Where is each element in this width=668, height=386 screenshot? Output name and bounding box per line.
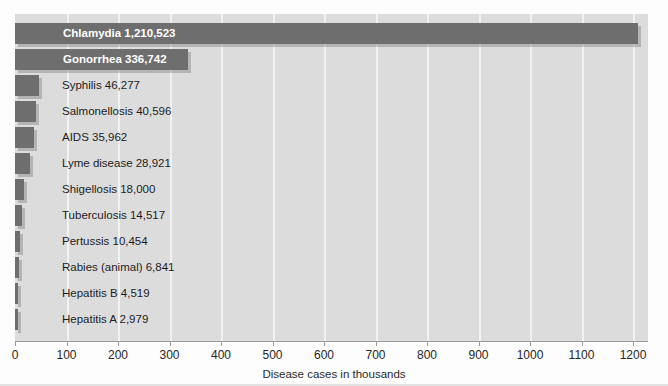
- bar-shadow: [18, 312, 21, 333]
- bar[interactable]: [15, 153, 30, 174]
- bar-row[interactable]: Hepatitis A 2,979: [15, 308, 648, 334]
- x-tick-mark: [118, 341, 119, 346]
- bar-shadow: [18, 260, 22, 281]
- x-axis-title: Disease cases in thousands: [0, 368, 668, 380]
- bar-row[interactable]: Salmonellosis 40,596: [15, 100, 648, 126]
- bar[interactable]: [15, 75, 39, 96]
- plot-area: Chlamydia 1,210,523Gonorrhea 336,742Syph…: [15, 14, 648, 341]
- x-tick-mark: [530, 341, 531, 346]
- bar-row[interactable]: AIDS 35,962: [15, 126, 648, 152]
- bar-data-label: Syphilis 46,277: [62, 77, 140, 94]
- x-tick-mark: [376, 341, 377, 346]
- x-tick-mark: [170, 341, 171, 346]
- x-tick-mark: [479, 341, 480, 346]
- x-axis-line: [15, 341, 648, 342]
- bar[interactable]: [15, 231, 20, 252]
- x-tick-label: 1200: [603, 348, 663, 363]
- bar[interactable]: [15, 205, 22, 226]
- x-tick-mark: [67, 341, 68, 346]
- bar-row[interactable]: Chlamydia 1,210,523: [15, 22, 648, 48]
- bar-row[interactable]: Tuberculosis 14,517: [15, 204, 648, 230]
- bar-chart: Chlamydia 1,210,523Gonorrhea 336,742Syph…: [0, 0, 668, 386]
- bar-data-label: Hepatitis B 4,519: [62, 285, 150, 302]
- bar-row[interactable]: Gonorrhea 336,742: [15, 48, 648, 74]
- bar-row[interactable]: Lyme disease 28,921: [15, 152, 648, 178]
- bar-data-label: Hepatitis A 2,979: [62, 311, 148, 328]
- bar[interactable]: [15, 257, 19, 278]
- x-tick-mark: [633, 341, 634, 346]
- bar-data-label: Shigellosis 18,000: [62, 181, 155, 198]
- bar-row[interactable]: Shigellosis 18,000: [15, 178, 648, 204]
- bar-data-label: Gonorrhea 336,742: [63, 51, 167, 68]
- x-tick-mark: [221, 341, 222, 346]
- bar[interactable]: [15, 309, 18, 330]
- bar-data-label: AIDS 35,962: [62, 129, 127, 146]
- bar-row[interactable]: Rabies (animal) 6,841: [15, 256, 648, 282]
- x-tick-mark: [582, 341, 583, 346]
- bar[interactable]: [15, 283, 18, 304]
- bar-data-label: Tuberculosis 14,517: [62, 207, 165, 224]
- bar-data-label: Pertussis 10,454: [62, 233, 148, 250]
- bar-data-label: Salmonellosis 40,596: [62, 103, 171, 120]
- x-tick-mark: [15, 341, 16, 346]
- bar-data-label: Rabies (animal) 6,841: [62, 259, 175, 276]
- bar-row[interactable]: Hepatitis B 4,519: [15, 282, 648, 308]
- bar[interactable]: [15, 101, 36, 122]
- x-tick-mark: [273, 341, 274, 346]
- bar-row[interactable]: Syphilis 46,277: [15, 74, 648, 100]
- x-tick-mark: [324, 341, 325, 346]
- bar[interactable]: [15, 179, 24, 200]
- bar[interactable]: [15, 127, 34, 148]
- bar-data-label: Chlamydia 1,210,523: [63, 25, 176, 42]
- bar-data-label: Lyme disease 28,921: [62, 155, 171, 172]
- x-tick-mark: [427, 341, 428, 346]
- bar-row[interactable]: Pertussis 10,454: [15, 230, 648, 256]
- bar-shadow: [18, 286, 21, 307]
